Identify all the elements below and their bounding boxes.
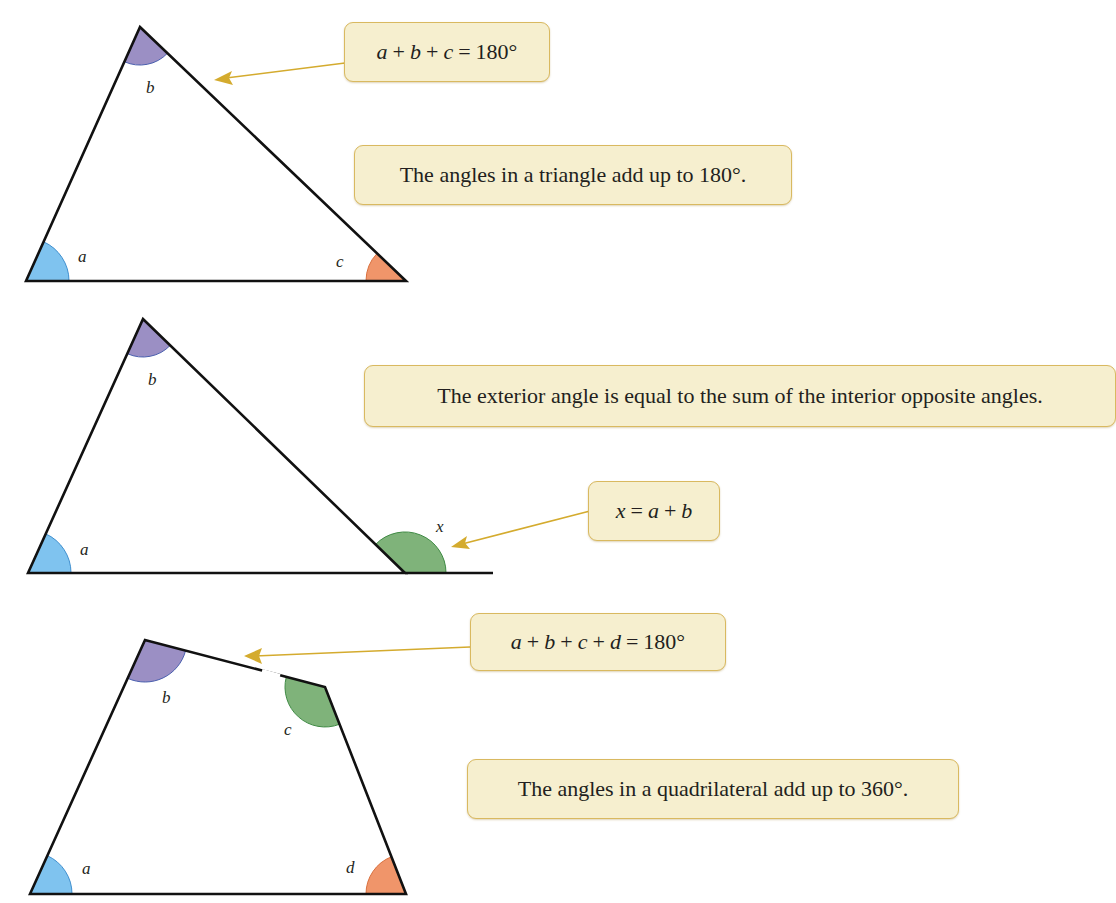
formula-var: a: [648, 498, 659, 524]
formula-var: a: [377, 39, 388, 65]
statement-text: The exterior angle is equal to the sum o…: [437, 383, 1042, 409]
angle-x-sector: [376, 532, 446, 573]
edge-gap: [262, 671, 280, 676]
angle-a-sector: [28, 534, 71, 573]
formula-op: =: [630, 498, 642, 524]
pointer-line: [462, 511, 590, 544]
angle-a-sector: [30, 856, 72, 894]
statement-text: The angles in a triangle add up to 180°.: [400, 162, 747, 188]
formula-var: b: [410, 39, 421, 65]
formula-op: =: [458, 39, 470, 65]
quadrilateral-panel: a b c d: [30, 640, 470, 894]
label-d: d: [346, 858, 355, 877]
label-c: c: [284, 720, 292, 739]
quadrilateral-formula-callout: a + b + c + d = 180°: [470, 613, 726, 671]
triangle-statement-callout: The angles in a triangle add up to 180°.: [354, 145, 792, 205]
formula-var: c: [443, 39, 453, 65]
formula-var: a: [511, 629, 522, 655]
formula-lhs: x: [616, 498, 626, 524]
label-a: a: [78, 247, 87, 266]
formula-op: +: [527, 629, 539, 655]
formula-var: d: [610, 629, 621, 655]
triangle-outline: [28, 319, 405, 573]
label-c: c: [336, 252, 344, 271]
label-b: b: [146, 78, 155, 97]
statement-text: The angles in a quadrilateral add up to …: [518, 776, 909, 802]
exterior-statement-callout: The exterior angle is equal to the sum o…: [364, 365, 1116, 427]
formula-op: +: [426, 39, 438, 65]
formula-op: +: [393, 39, 405, 65]
quadrilateral-statement-callout: The angles in a quadrilateral add up to …: [467, 759, 959, 819]
formula-op: +: [560, 629, 572, 655]
pointer-line: [226, 63, 345, 78]
pointer-line: [255, 647, 470, 656]
exterior-angle-panel: a b x: [28, 319, 590, 573]
formula-value: 180°: [476, 39, 518, 65]
formula-op: +: [664, 498, 676, 524]
label-b: b: [148, 370, 157, 389]
angle-a-sector: [26, 242, 69, 281]
label-b: b: [162, 688, 171, 707]
formula-var: b: [681, 498, 692, 524]
label-a: a: [80, 540, 89, 559]
formula-value: 180°: [643, 629, 685, 655]
exterior-formula-callout: x = a + b: [588, 481, 720, 541]
label-a: a: [82, 859, 91, 878]
formula-var: b: [544, 629, 555, 655]
label-x: x: [435, 517, 444, 536]
formula-var: c: [578, 629, 588, 655]
formula-op: =: [626, 629, 638, 655]
quadrilateral-outline: [30, 640, 406, 894]
formula-op: +: [592, 629, 604, 655]
triangle-formula-callout: a + b + c = 180°: [344, 22, 550, 82]
